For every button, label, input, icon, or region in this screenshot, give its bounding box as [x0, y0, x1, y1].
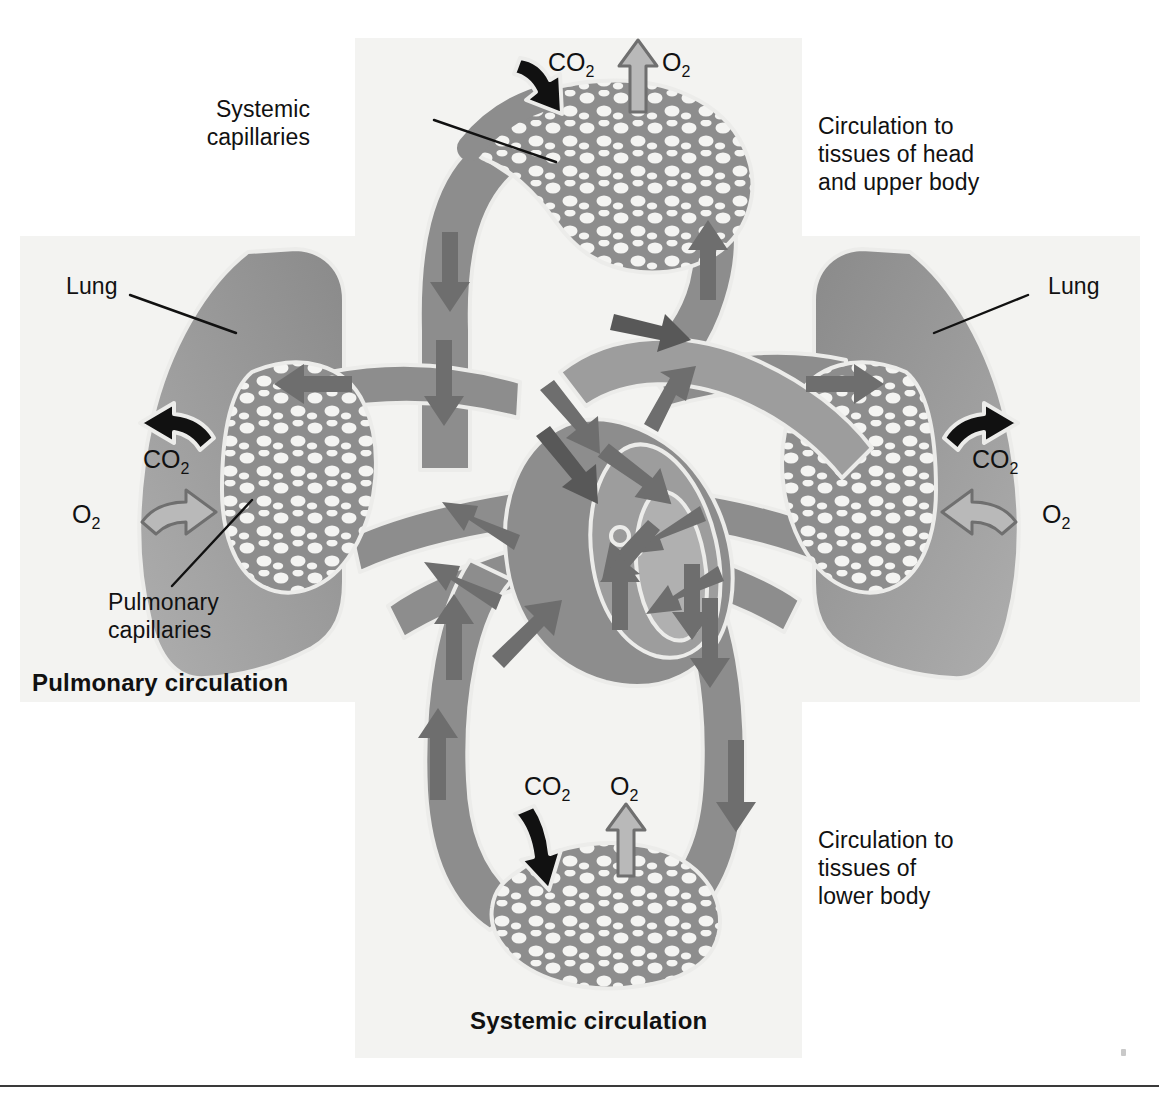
gas-label-right-co2: CO2 — [972, 445, 1018, 478]
gas-label-bottom-o2: O2 — [610, 772, 638, 805]
label-pulmonary-capillaries: Pulmonary capillaries — [108, 588, 219, 644]
label-systemic-capillaries: Systemic capillaries — [207, 95, 310, 151]
page-bottom-rule — [0, 1085, 1159, 1087]
caption-pulmonary-circulation: Pulmonary circulation — [32, 668, 288, 697]
label-upper-body-circulation: Circulation to tissues of head and upper… — [818, 112, 979, 196]
figure-canvas: Systemic capillaries Lung Lung Pulmonary… — [0, 0, 1159, 1103]
label-lung-left: Lung — [66, 272, 118, 300]
label-lower-body-circulation: Circulation to tissues of lower body — [818, 826, 954, 910]
circulation-illustration — [0, 0, 1159, 1103]
gas-label-right-o2: O2 — [1042, 500, 1070, 533]
scan-artifact — [1121, 1049, 1126, 1056]
gas-label-left-co2: CO2 — [143, 445, 189, 478]
label-lung-right: Lung — [1048, 272, 1100, 300]
gas-label-top-co2: CO2 — [548, 48, 594, 81]
caption-systemic-circulation: Systemic circulation — [470, 1006, 707, 1035]
gas-label-left-o2: O2 — [72, 500, 100, 533]
gas-label-bottom-co2: CO2 — [524, 772, 570, 805]
gas-label-top-o2: O2 — [662, 48, 690, 81]
